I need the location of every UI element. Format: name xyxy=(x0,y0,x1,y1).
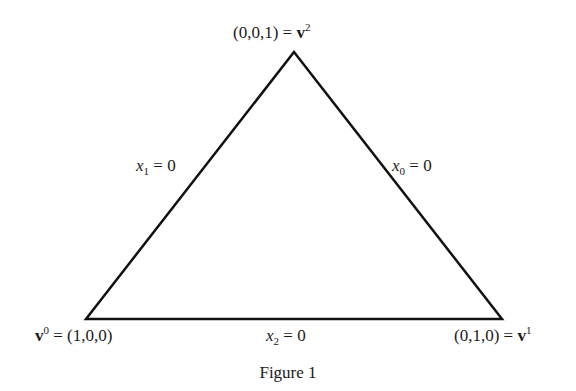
vertex-right-label: (0,1,0) = v1 xyxy=(454,327,531,344)
vertex-top-label: (0,0,1) = v2 xyxy=(233,24,310,41)
edge-bottom-label: x2 = 0 xyxy=(266,327,306,344)
figure-caption: Figure 1 xyxy=(0,363,576,383)
triangle-outline xyxy=(86,52,502,319)
vertex-left-label: v0 = (1,0,0) xyxy=(35,327,112,344)
edge-left-label: x1 = 0 xyxy=(136,157,176,174)
edge-right-label: x0 = 0 xyxy=(392,157,432,174)
